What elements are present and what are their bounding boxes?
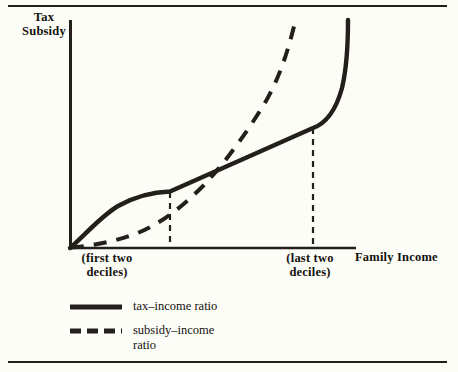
y-axis-label: Tax Subsidy xyxy=(18,11,70,38)
legend-label-subsidy-income-ratio: subsidy–income ratio xyxy=(133,323,214,352)
plot-svg xyxy=(0,0,458,372)
figure-container: Tax Subsidy Family Income (first two dec… xyxy=(0,0,458,372)
x-tick-label-first-two-deciles: (first two deciles) xyxy=(61,251,153,279)
x-tick-label-last-two-deciles: (last two deciles) xyxy=(264,251,356,279)
x-axis-label: Family Income xyxy=(355,251,438,265)
legend-label-tax-income-ratio: tax–income ratio xyxy=(133,299,217,314)
tax-income-ratio-curve xyxy=(70,20,348,248)
